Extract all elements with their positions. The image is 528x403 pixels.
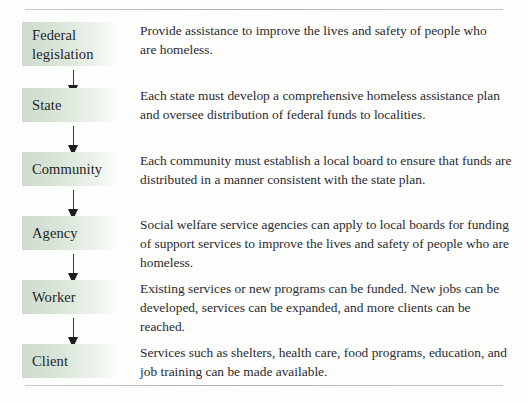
description-client: Services such as shelters, health care, …: [140, 343, 512, 381]
flow-node-label: Federal legislation: [32, 26, 94, 63]
description-federal-legislation: Provide assistance to improve the lives …: [140, 21, 506, 59]
description-community: Each community must establish a local bo…: [140, 151, 512, 189]
flow-node-federal-legislation: Federal legislation: [22, 22, 120, 66]
flow-node-label: Client: [32, 352, 68, 371]
flow-node-agency: Agency: [22, 216, 120, 250]
flow-node-community: Community: [22, 152, 120, 186]
description-agency: Social welfare service agencies can appl…: [140, 215, 512, 272]
description-worker: Existing services or new programs can be…: [140, 279, 500, 336]
bottom-divider-rule: [25, 385, 503, 386]
flow-node-label: Agency: [32, 224, 78, 243]
flow-node-label: Worker: [32, 288, 76, 307]
flow-node-state: State: [22, 88, 120, 122]
flow-node-client: Client: [22, 344, 120, 378]
flow-node-label: Community: [32, 160, 102, 179]
description-state: Each state must develop a comprehensive …: [140, 86, 512, 124]
top-divider-rule: [25, 9, 503, 10]
flow-node-worker: Worker: [22, 280, 120, 314]
flow-node-label: State: [32, 96, 62, 115]
flowchart-figure: Federal legislation State Community Agen…: [0, 0, 528, 403]
